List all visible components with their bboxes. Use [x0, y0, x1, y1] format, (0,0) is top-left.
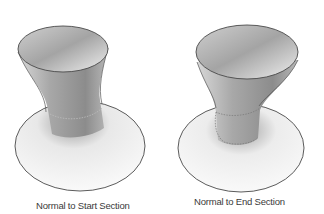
right-top-rim: [196, 25, 298, 79]
right-loft-shape: [178, 25, 304, 192]
right-caption: Normal to End Section: [194, 196, 285, 207]
left-top-rim: [18, 26, 108, 72]
loft-comparison-figure: [0, 0, 324, 214]
left-loft-shape: [15, 26, 145, 191]
left-caption: Normal to Start Section: [36, 200, 130, 211]
